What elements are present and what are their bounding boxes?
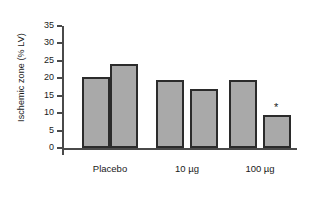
y-axis-tick-label: 0 [30,143,54,152]
bar [156,80,184,148]
y-axis-tick-label: 25 [30,56,54,65]
bar [110,64,138,148]
bar [229,80,257,148]
significance-asterisk: * [274,103,278,111]
x-axis-origin-tick [62,150,64,155]
y-axis-tick-label: 10 [30,108,54,117]
bar-chart-figure: Ischemic zone (% LV) 05101520253035 * Pl… [0,0,312,197]
x-axis-line [62,148,297,150]
bar [263,115,291,148]
y-axis-tick-label: 35 [30,21,54,30]
y-axis-tick-label: 30 [30,38,54,47]
bar [190,89,218,148]
y-axis-title: Ischemic zone (% LV) [14,0,28,155]
y-axis-tick-label: 5 [30,126,54,135]
x-axis-category-label: 100 µg [220,163,300,174]
plot-area: * [62,26,297,148]
x-axis-category-label: Placebo [70,163,150,174]
x-axis-category-label: 10 µg [147,163,227,174]
y-axis-tick-label: 20 [30,73,54,82]
y-axis-tick-label: 15 [30,91,54,100]
bar [82,77,110,148]
